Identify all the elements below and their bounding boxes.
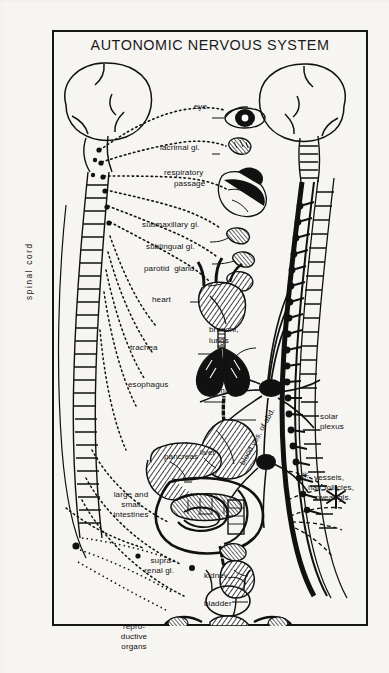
label-skin-line2: hair follicles,: [308, 483, 354, 492]
label-lacrimal-gland: lacrimal gl.: [160, 143, 200, 152]
label-suprarenal-line1: supra-: [114, 556, 174, 565]
label-esophagus: esophagus: [128, 380, 169, 389]
label-respiratory-line1: respiratory: [164, 168, 203, 177]
label-suprarenal-line2: renal gl.: [114, 566, 174, 575]
body-outline-left: [59, 205, 86, 558]
spinal-column-left: [73, 172, 109, 538]
brain-right-icon: [259, 64, 345, 142]
eye-organ-icon: [225, 107, 265, 128]
label-bronchi-line1: bronchi,: [209, 325, 239, 334]
label-pancreas: pancreas: [164, 452, 198, 461]
label-bladder: bladder: [204, 599, 232, 608]
anatomical-figure: eye lacrimal gl. respiratory passage sub…: [52, 30, 368, 626]
label-reproductive-line3: organs: [106, 642, 162, 651]
label-kidney: kidney: [204, 571, 228, 580]
respiratory-passage-icon: [218, 168, 266, 217]
label-intestines-line3: intestines: [100, 510, 162, 519]
label-spinal-cord: spinal cord: [24, 242, 34, 300]
label-parotid-gland: parotid gland: [144, 264, 194, 273]
label-trachea: trachea: [130, 343, 158, 352]
label-submaxillary-gland: submaxillary gl.: [142, 220, 199, 229]
esophagus-organ-icon: [220, 396, 229, 422]
label-intestines-line1: large and: [100, 490, 162, 499]
parasympathetic-cranial-fibers: [100, 108, 228, 282]
label-solar-plexus-line1: solar: [320, 412, 338, 421]
label-respiratory-line2: passage: [174, 179, 205, 188]
brainstem-left-icon: [84, 136, 112, 172]
heart-organ-icon: [198, 258, 245, 331]
lacrimal-gland-icon: [229, 138, 251, 154]
label-skin-line3: sweat gls.: [314, 493, 351, 502]
sublingual-gland-icon: [233, 252, 255, 267]
label-sublingual-gland: sublingual gl.: [146, 242, 195, 251]
brain-left-icon: [65, 63, 152, 141]
label-reproductive-line1: repro-: [106, 622, 162, 631]
label-eye: eye: [152, 102, 207, 111]
label-reproductive-line2: ductive: [106, 632, 162, 641]
reproductive-organs-icon: [164, 616, 292, 626]
brainstem-right-icon: [299, 136, 320, 182]
label-liver: liver: [200, 448, 215, 457]
asterisk-legend-icon: ✳: [301, 471, 309, 480]
label-stomach: stomach: [207, 386, 238, 395]
label-skin-line1: vessels,: [314, 473, 344, 482]
label-intestines-line2: small: [100, 500, 162, 509]
submaxillary-gland-icon: [227, 228, 250, 244]
label-heart: heart: [152, 295, 171, 304]
label-lungs-line2: lungs: [209, 336, 229, 345]
label-solar-plexus-line2: plexus: [320, 422, 344, 431]
